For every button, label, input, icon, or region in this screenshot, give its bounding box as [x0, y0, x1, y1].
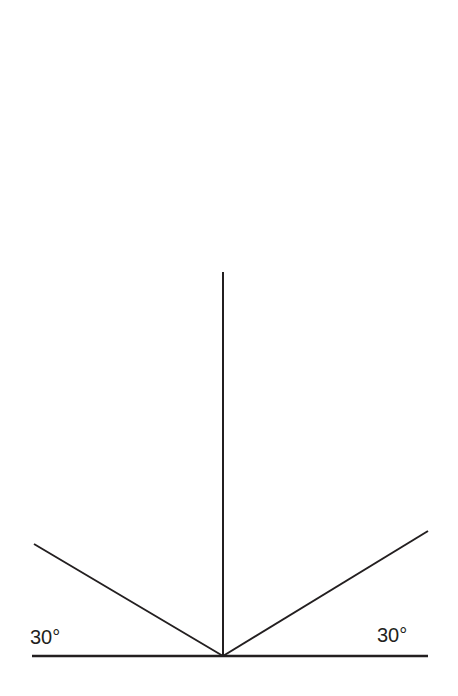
left-ray — [34, 544, 223, 656]
angle-diagram: 30° 30° — [0, 0, 458, 696]
left-angle-label: 30° — [30, 626, 60, 648]
right-angle-label: 30° — [377, 624, 407, 646]
